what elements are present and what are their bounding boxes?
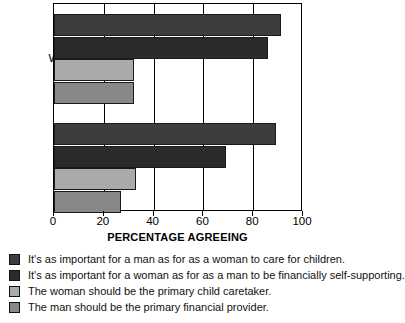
legend-swatch-icon-1 bbox=[9, 254, 20, 265]
x-tick-label-20: 20 bbox=[83, 215, 123, 228]
legend-label-3: The woman should be the primary child ca… bbox=[28, 285, 271, 298]
bar-women-series-1 bbox=[54, 14, 281, 36]
legend-swatch-icon-2 bbox=[9, 270, 20, 281]
legend-label-2: It's as important for a woman as for as … bbox=[28, 269, 405, 282]
legend-item-2: It's as important for a woman as for as … bbox=[9, 268, 393, 283]
bar-men-series-1 bbox=[54, 123, 276, 145]
legend-swatch-icon-3 bbox=[9, 286, 20, 297]
legend-label-4: The man should be the primary financial … bbox=[28, 301, 269, 314]
bar-men-series-4 bbox=[54, 191, 121, 213]
x-axis-title: PERCENTAGE AGREEING bbox=[53, 231, 302, 243]
bar-men-series-2 bbox=[54, 146, 226, 168]
legend-item-4: The man should be the primary financial … bbox=[9, 300, 393, 315]
x-tick-label-80: 80 bbox=[232, 215, 272, 228]
legend-label-1: It's as important for a man as for as a … bbox=[28, 253, 345, 266]
legend-item-3: The woman should be the primary child ca… bbox=[9, 284, 393, 299]
bar-women-series-3 bbox=[54, 59, 134, 81]
x-tick-label-60: 60 bbox=[182, 215, 222, 228]
legend-item-1: It's as important for a man as for as a … bbox=[9, 252, 393, 267]
x-tick-label-100: 100 bbox=[282, 215, 322, 228]
bar-women-series-2 bbox=[54, 37, 268, 59]
x-tick-label-0: 0 bbox=[33, 215, 73, 228]
x-tick-label-40: 40 bbox=[133, 215, 173, 228]
bars-layer bbox=[54, 4, 301, 210]
bar-women-series-4 bbox=[54, 82, 134, 104]
bar-men-series-3 bbox=[54, 168, 136, 190]
legend-swatch-icon-4 bbox=[9, 302, 20, 313]
legend: It's as important for a man as for as a … bbox=[9, 252, 393, 316]
plot-area bbox=[53, 3, 302, 211]
